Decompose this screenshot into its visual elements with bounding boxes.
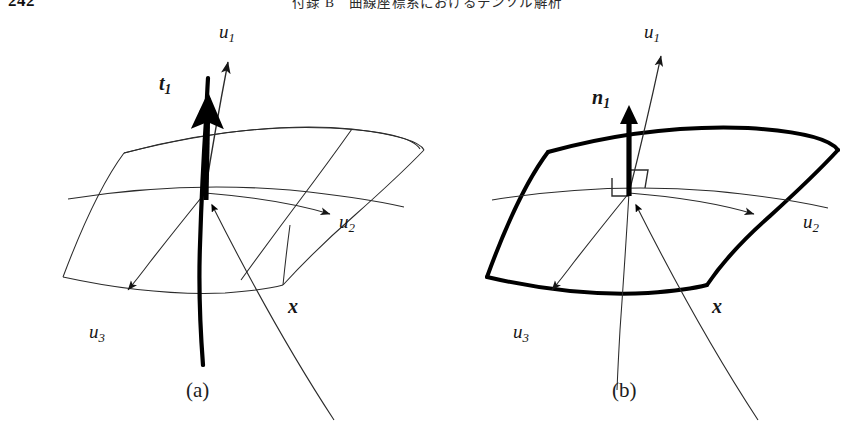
label-u3-fig-a: u3 bbox=[89, 322, 105, 345]
surface-curve-u3-line bbox=[160, 128, 305, 284]
label-x-fig-a: x bbox=[288, 296, 298, 316]
surface-curve-outer-top bbox=[124, 127, 424, 153]
axis-arrow-u3 bbox=[128, 193, 205, 290]
surface-edge-top bbox=[124, 128, 420, 153]
figure-b bbox=[487, 56, 838, 420]
label-u1-fig-a: u1 bbox=[219, 22, 235, 45]
label-u2-fig-a: u2 bbox=[339, 212, 355, 235]
axis-arrow-u2 bbox=[205, 193, 330, 214]
label-u2-fig-b: u2 bbox=[803, 212, 819, 235]
surface-edge-right-lower bbox=[283, 225, 290, 285]
surface-edge-bottom bbox=[63, 277, 283, 293]
caption-fig-b: (b) bbox=[612, 378, 637, 403]
axis-arrow-u1 bbox=[629, 56, 661, 193]
figure-canvas bbox=[0, 0, 854, 432]
label-u3-fig-b: u3 bbox=[513, 322, 529, 345]
figure-area: u1 t1 u2 u3 x (a) u1 n1 u2 u3 x (b) bbox=[0, 0, 854, 432]
axis-arrow-u3 bbox=[552, 193, 629, 290]
surface-curve-interior-right bbox=[241, 129, 352, 280]
figure-a bbox=[63, 62, 424, 420]
label-t1-fig-a: t1 bbox=[159, 73, 171, 97]
label-u1-fig-b: u1 bbox=[644, 22, 660, 45]
surface-b-curve-u2 bbox=[492, 188, 828, 208]
caption-fig-a: (a) bbox=[186, 378, 209, 403]
axis-arrow-u2 bbox=[629, 193, 754, 214]
tangent-vector-t1-head bbox=[199, 98, 216, 112]
coordinate-surface-outline bbox=[487, 128, 838, 294]
label-n1-fig-b: n1 bbox=[592, 87, 610, 111]
label-x-fig-b: x bbox=[712, 296, 722, 316]
surface-edge-left bbox=[63, 153, 124, 277]
surface-b-edge-left bbox=[487, 152, 548, 277]
position-vector-x bbox=[636, 205, 758, 420]
surface-b-edge-top bbox=[548, 128, 838, 153]
surface-curve-u2-through-origin bbox=[68, 187, 404, 207]
surface-curve-v1 bbox=[185, 141, 241, 296]
position-vector-x bbox=[212, 205, 334, 420]
coordinate-curve-below bbox=[617, 193, 629, 390]
tangent-vector-t1 bbox=[206, 98, 208, 200]
coordinate-surface-grid bbox=[63, 127, 424, 296]
surface-b-edge-bottom bbox=[487, 277, 707, 294]
normal-vector-n1-head bbox=[620, 105, 638, 124]
